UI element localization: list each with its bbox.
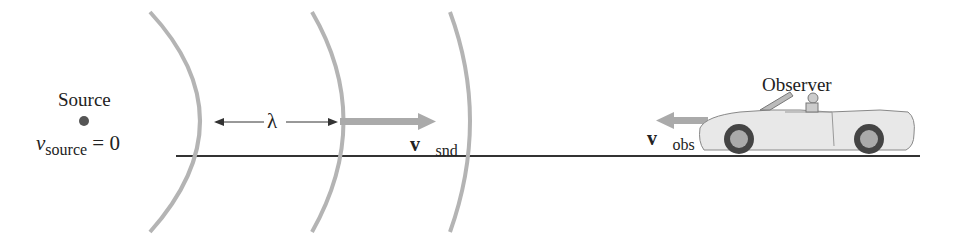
source-label: Source (58, 90, 111, 109)
sound-velocity-symbol: v⃗ (410, 133, 436, 155)
wavelength-label: λ (267, 111, 277, 132)
sound-velocity-subscript: snd (436, 142, 458, 159)
doppler-diagram: Source vsource = 0 λ v⃗snd Observer v⃗ob… (0, 0, 954, 244)
observer-label: Observer (762, 75, 832, 94)
wavefront-1 (150, 12, 200, 232)
source-velocity-subscript: source (45, 141, 87, 158)
observer-velocity-label: v⃗obs (647, 128, 695, 148)
source-dot (79, 116, 89, 126)
source-velocity-value: = 0 (92, 131, 120, 155)
source-velocity-symbol: v (36, 131, 45, 155)
sound-velocity-arrow (340, 113, 436, 130)
source-velocity-label: vsource = 0 (36, 133, 120, 154)
observer-velocity-subscript: obs (673, 136, 695, 153)
diagram-graphics (0, 0, 954, 244)
wavefront-3 (450, 12, 470, 232)
car-icon (700, 92, 915, 154)
sound-velocity-label: v⃗snd (410, 134, 458, 154)
observer-velocity-symbol: v⃗ (647, 127, 673, 149)
